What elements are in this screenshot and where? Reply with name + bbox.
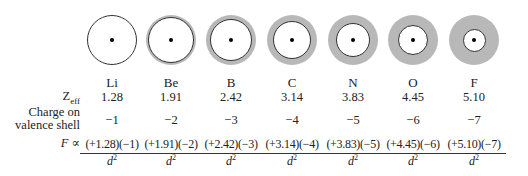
denominator-exponent: 2 [475, 153, 479, 162]
force-numerator: (+4.45)(−6) [381, 137, 445, 154]
force-numerator: (+1.28)(−1) [80, 137, 144, 154]
charge-label-line2: valence shell [15, 118, 80, 132]
element-symbol: O [383, 75, 443, 91]
force-numerator: (+5.10)(−7) [442, 137, 506, 154]
denominator-exponent: 2 [113, 153, 117, 162]
element-symbol: C [262, 75, 322, 91]
atom-shielding-diagram [87, 15, 137, 65]
nucleus-dot [229, 38, 233, 42]
zeff-value: 5.10 [444, 90, 504, 105]
nucleus-dot [472, 38, 476, 42]
nucleus-dot [169, 38, 173, 42]
atom-shielding-diagram [206, 15, 256, 65]
element-symbol: N [323, 75, 383, 91]
force-denominator: d2 [262, 153, 322, 169]
valence-charge: −3 [201, 113, 261, 128]
zeff-value: 1.28 [82, 90, 142, 105]
denominator-exponent: 2 [354, 153, 358, 162]
zeff-label-sub: eff [70, 96, 80, 106]
nucleus-dot [110, 38, 114, 42]
element-column-n: N 3.83 −5 (+3.83)(−5) d2 [323, 0, 383, 176]
element-symbol: F [444, 75, 504, 91]
zeff-value: 3.14 [262, 90, 322, 105]
element-column-c: C 3.14 −4 (+3.14)(−4) d2 [262, 0, 322, 176]
zeff-value: 1.91 [141, 90, 201, 105]
force-denominator: d2 [201, 153, 261, 169]
force-numerator: (+1.91)(−2) [139, 137, 203, 154]
force-numerator: (+2.42)(−3) [199, 137, 263, 154]
denominator-exponent: 2 [414, 153, 418, 162]
denominator-exponent: 2 [172, 153, 176, 162]
force-row-label: F ∝ [61, 137, 80, 150]
zeff-value: 2.42 [201, 90, 261, 105]
element-column-be: Be 1.91 −2 (+1.91)(−2) d2 [141, 0, 201, 176]
element-symbol: Be [141, 75, 201, 91]
valence-charge: −6 [383, 113, 443, 128]
valence-charge: −2 [141, 113, 201, 128]
nucleus-dot [351, 38, 355, 42]
valence-charge: −1 [82, 113, 142, 128]
element-column-li: Li 1.28 −1 (+1.28)(−1) d2 [82, 0, 142, 176]
denominator-exponent: 2 [293, 153, 297, 162]
force-denominator: d2 [444, 153, 504, 169]
atom-shielding-diagram [388, 15, 438, 65]
atom-shielding-diagram [328, 15, 378, 65]
valence-charge: −4 [262, 113, 322, 128]
force-numerator: (+3.14)(−4) [260, 137, 324, 154]
force-denominator: d2 [82, 153, 142, 169]
denominator-exponent: 2 [232, 153, 236, 162]
force-numerator: (+3.83)(−5) [321, 137, 385, 154]
force-denominator: d2 [141, 153, 201, 169]
zeff-value: 3.83 [323, 90, 383, 105]
atom-shielding-diagram [146, 15, 196, 65]
zeff-value: 4.45 [383, 90, 443, 105]
element-symbol: Li [82, 75, 142, 91]
charge-row-label: Charge onvalence shell [15, 106, 80, 132]
nucleus-dot [290, 38, 294, 42]
element-symbol: B [201, 75, 261, 91]
charge-label-line1: Charge on [29, 105, 81, 119]
force-denominator: d2 [323, 153, 383, 169]
force-denominator: d2 [383, 153, 443, 169]
element-column-b: B 2.42 −3 (+2.42)(−3) d2 [201, 0, 261, 176]
valence-charge: −5 [323, 113, 383, 128]
atom-shielding-diagram [267, 15, 317, 65]
nucleus-dot [411, 38, 415, 42]
element-column-o: O 4.45 −6 (+4.45)(−6) d2 [383, 0, 443, 176]
valence-charge: −7 [444, 113, 504, 128]
element-column-f: F 5.10 −7 (+5.10)(−7) d2 [444, 0, 504, 176]
atom-shielding-diagram [449, 15, 499, 65]
